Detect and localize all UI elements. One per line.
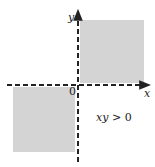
x-axis-label: x	[144, 88, 150, 99]
y-axis-label: y	[68, 12, 74, 23]
origin-label: 0	[69, 86, 76, 97]
condition-operator: >	[112, 111, 121, 124]
condition-rhs: 0	[125, 111, 132, 124]
axes	[0, 0, 155, 167]
condition-label: xy > 0	[96, 112, 132, 123]
condition-lhs: xy	[96, 111, 108, 124]
coordinate-plane-diagram: y x 0 xy > 0	[0, 0, 155, 167]
